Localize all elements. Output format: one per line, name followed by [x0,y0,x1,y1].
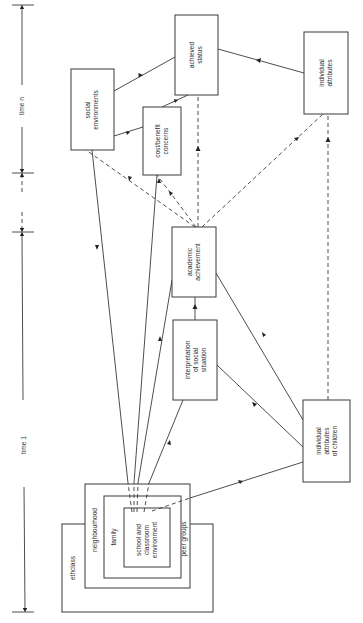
edge-school-social [92,150,128,483]
svg-text:attributes: attributes [326,59,333,87]
svg-text:cost/benefit: cost/benefit [154,124,161,158]
svg-text:concerns: concerns [162,127,169,154]
timeline: time n time 1 [12,5,34,612]
svg-text:classroom: classroom [143,524,150,555]
node-individual-attributes-children: individual attributes of children [303,400,350,482]
school-label: school and classroom environment [135,522,158,558]
svg-text:of children: of children [331,425,338,456]
time-1-arrow-down [24,487,25,610]
node-individual-attributes: individual attributes [304,32,348,114]
svg-text:individual: individual [318,59,325,87]
neighbourhood-label: neighbourhood [91,508,99,552]
edge-social-achieved [114,57,175,91]
svg-text:interpretation: interpretation [184,340,192,379]
diagram-canvas: time n time 1 ethclass neighbourhood fam… [0,0,363,623]
svg-text:attributes: attributes [323,427,330,455]
time-n-label: time n [18,97,25,115]
node-cost-benefit: cost/benefit concerns [143,107,181,175]
node-academic-achievement: academic achievement [172,227,216,297]
svg-text:school and: school and [135,524,142,556]
edge-children-academic [216,273,303,420]
svg-text:achieved: achieved [188,41,195,68]
node-social-environments: social environments [71,69,114,150]
svg-text:social: social [84,101,91,118]
edge-academic-costbenefit [157,175,196,227]
svg-text:of social: of social [192,347,199,372]
svg-text:achievement: achievement [194,243,201,281]
edge-social-costbenefit [114,127,143,136]
svg-text:situation: situation [200,347,207,372]
peer-groups-label: peer groups [180,521,188,557]
svg-text:academic: academic [186,247,193,276]
node-interpretation: interpretation of social situation [173,320,217,400]
edge-academic-attributes [202,114,323,227]
time-1-arrow-up [22,234,23,400]
node-achieved-status: achieved status [175,15,218,95]
edge-children-school [190,462,303,498]
svg-text:environment: environment [151,522,158,558]
edge-attributes-achieved [218,49,304,73]
ethclass-label: ethclass [69,555,76,580]
time-1-label: time 1 [20,436,27,454]
edge-school-interpretation [149,400,183,483]
edge-school-academic [138,280,172,483]
edge-children-interpretation [217,365,303,447]
svg-text:individual: individual [315,427,322,455]
svg-text:status: status [196,46,203,64]
family-label: family [110,528,118,546]
svg-text:environments: environments [92,90,99,130]
